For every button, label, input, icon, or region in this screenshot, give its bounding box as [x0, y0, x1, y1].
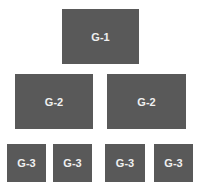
node-label: G-3: [116, 157, 134, 169]
node-g2-right: G-2: [107, 74, 186, 129]
node-label: G-2: [45, 96, 63, 108]
node-g3-1: G-3: [7, 144, 46, 182]
node-g3-3: G-3: [105, 144, 145, 182]
node-label: G-1: [91, 31, 109, 43]
node-label: G-3: [164, 157, 182, 169]
node-g3-4: G-3: [154, 144, 193, 182]
node-g1: G-1: [62, 9, 139, 64]
node-label: G-2: [137, 96, 155, 108]
node-g2-left: G-2: [15, 74, 93, 129]
node-label: G-3: [17, 157, 35, 169]
node-label: G-3: [63, 157, 81, 169]
node-g3-2: G-3: [53, 144, 92, 182]
